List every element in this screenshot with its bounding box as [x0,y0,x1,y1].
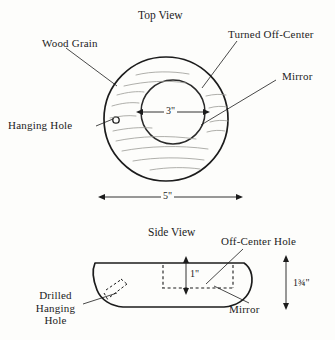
mirror-leader-top [201,80,276,125]
top-view-title: Top View [138,9,183,21]
label-mirror-top: Mirror [282,70,313,82]
side-profile-outline [93,263,252,307]
dimension-inner-diameter: 3" [164,105,177,116]
outer-circle [104,57,228,181]
label-off-center-hole: Off-Center Hole [221,235,296,247]
drilled-hanging-hole-dashed [104,279,128,300]
diagram-page: Top View Wood Grain Turned Off-Center Mi… [0,0,335,340]
label-drilled-hanging-hole: Drilled Hanging Hole [28,289,83,327]
dimension-outer-diameter: 5" [161,190,174,201]
label-turned-off-center: Turned Off-Center [228,28,314,40]
wood-grain-leader [66,48,117,86]
dimension-overall-height: 1¾" [291,277,312,288]
side-view-group [83,249,286,307]
label-wood-grain: Wood Grain [42,37,98,49]
off-center-hole-leader [206,249,243,284]
side-view-title: Side View [148,226,195,238]
turned-off-center-leader [202,41,237,88]
dimension-hole-depth: 1" [188,268,201,279]
top-view-group [66,41,276,197]
wood-grain-lines [110,72,228,170]
label-hanging-hole: Hanging Hole [8,119,72,131]
hanging-hole-circle [113,117,119,123]
label-mirror-side: Mirror [229,303,260,315]
